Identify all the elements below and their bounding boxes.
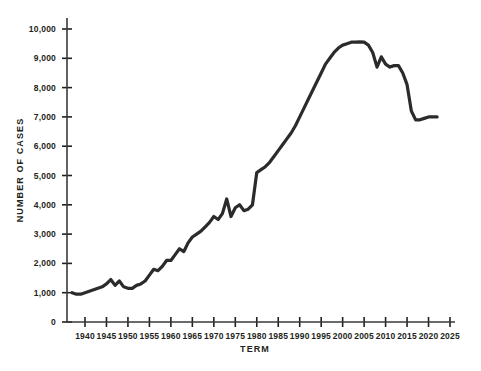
x-tick-label-2005: 2005 (354, 331, 374, 341)
x-tick-label-1980: 1980 (247, 331, 267, 341)
x-tick-label-1965: 1965 (182, 331, 202, 341)
y-tick-label-2000: 2,000 (34, 258, 56, 268)
y-tick-label-7000: 7,000 (34, 112, 56, 122)
y-tick-label-5000: 5,000 (34, 171, 56, 181)
x-tick-label-2000: 2000 (333, 331, 353, 341)
y-tick-label-0: 0 (51, 317, 56, 327)
y-axis-tick-labels: 01,0002,0003,0004,0005,0006,0007,0008,00… (29, 24, 56, 327)
x-tick-label-1955: 1955 (140, 331, 160, 341)
x-tick-label-1960: 1960 (161, 331, 181, 341)
y-tick-label-4000: 4,000 (34, 200, 56, 210)
x-tick-label-2020: 2020 (419, 331, 439, 341)
data-series-line (72, 42, 437, 294)
y-tick-label-10000: 10,000 (29, 24, 56, 34)
x-tick-label-1940: 1940 (75, 331, 95, 341)
x-tick-label-1950: 1950 (118, 331, 138, 341)
x-axis-tick-labels: 1940194519501955196019651970197519801985… (75, 331, 460, 341)
x-tick-label-2010: 2010 (376, 331, 396, 341)
x-tick-label-2015: 2015 (397, 331, 417, 341)
chart-container: 01,0002,0003,0004,0005,0006,0007,0008,00… (0, 0, 481, 371)
y-tick-label-1000: 1,000 (34, 288, 56, 298)
x-tick-label-2025: 2025 (440, 331, 460, 341)
y-tick-label-9000: 9,000 (34, 53, 56, 63)
y-tick-label-8000: 8,000 (34, 83, 56, 93)
x-tick-label-1975: 1975 (225, 331, 245, 341)
x-tick-label-1990: 1990 (290, 331, 310, 341)
y-tick-label-6000: 6,000 (34, 141, 56, 151)
x-tick-label-1995: 1995 (311, 331, 331, 341)
y-tick-label-3000: 3,000 (34, 229, 56, 239)
line-chart: 01,0002,0003,0004,0005,0006,0007,0008,00… (0, 0, 481, 371)
x-tick-label-1970: 1970 (204, 331, 224, 341)
x-tick-label-1945: 1945 (97, 331, 117, 341)
x-axis-title: TERM (240, 344, 270, 354)
x-tick-label-1985: 1985 (268, 331, 288, 341)
y-axis-title: NUMBER OF CASES (15, 118, 25, 223)
